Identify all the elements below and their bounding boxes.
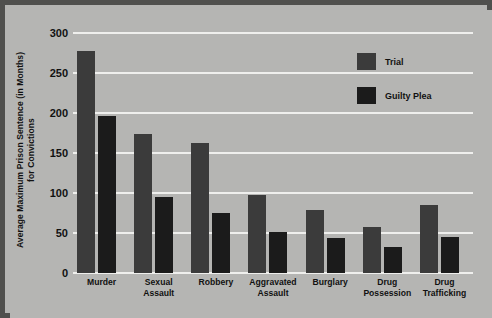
bar-group — [130, 33, 187, 273]
bar-group — [73, 33, 130, 273]
bar-plea — [441, 237, 459, 273]
bar-group — [302, 33, 359, 273]
bar-plea — [212, 213, 230, 273]
legend-item-guilty-plea: Guilty Plea — [357, 87, 432, 104]
legend-label-trial: Trial — [385, 57, 404, 67]
y-tick-label: 250 — [50, 68, 68, 79]
legend-item-trial: Trial — [357, 53, 432, 70]
legend-label-guilty-plea: Guilty Plea — [385, 91, 432, 101]
y-tick-label: 300 — [50, 28, 68, 39]
y-axis-title: Average Maximum Prison Sentence (in Mont… — [11, 5, 41, 295]
chart-screenshot: Average Maximum Prison Sentence (in Mont… — [0, 0, 492, 318]
bar-plea — [327, 238, 345, 273]
bar-trial — [420, 205, 438, 273]
bar-plea — [269, 232, 287, 273]
y-tick-label: 200 — [50, 108, 68, 119]
bar-trial — [306, 210, 324, 273]
y-axis-title-line1: Average Maximum Prison Sentence (in Mont… — [15, 52, 25, 248]
bar-group — [187, 33, 244, 273]
legend-swatch-trial-icon — [357, 53, 376, 70]
y-tick-label: 150 — [50, 148, 68, 159]
legend-swatch-guilty-plea-icon — [357, 87, 376, 104]
y-tick-label: 50 — [56, 228, 68, 239]
bar-plea — [155, 197, 173, 273]
bar-trial — [363, 227, 381, 273]
y-tick-label: 100 — [50, 188, 68, 199]
x-category-label: Drug Trafficking — [407, 277, 482, 298]
bar-group — [244, 33, 301, 273]
bar-trial — [134, 134, 152, 273]
bar-plea — [384, 247, 402, 273]
bar-trial — [191, 143, 209, 273]
bar-trial — [248, 195, 266, 273]
bar-trial — [77, 51, 95, 273]
figure-frame: Average Maximum Prison Sentence (in Mont… — [0, 0, 492, 318]
bar-plea — [98, 116, 116, 273]
chart-legend: Trial Guilty Plea — [357, 53, 432, 121]
y-axis-title-line2: for Convictions — [26, 118, 36, 182]
